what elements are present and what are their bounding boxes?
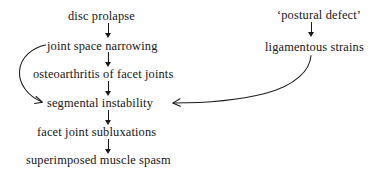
diagram-canvas: disc prolapse joint space narrowing oste… [0,0,387,181]
arrow-facet-joint-subluxations-to-muscle-spasm [104,139,113,154]
node-osteoarthritis-of-facet-joints: osteoarthritis of facet joints [33,68,173,80]
node-ligamentous-strains: ligamentous strains [265,41,364,53]
arrow-osteoarthritis-to-segmental-instability [104,81,113,96]
arrow-postural-defect-to-ligamentous-strains [307,22,316,37]
node-postural-defect: ‘postural defect’ [277,9,361,21]
node-segmental-instability: segmental instability [47,97,153,109]
arrow-segmental-instability-to-facet-joint-subluxations [104,110,113,125]
edge-ligamentous-strains-to-segmental-instability [174,56,312,104]
node-superimposed-muscle-spasm: superimposed muscle spasm [26,154,171,166]
node-disc-prolapse: disc prolapse [68,10,135,22]
arrow-disc-prolapse-to-joint-space-narrowing [104,23,113,38]
arrow-joint-space-narrowing-to-osteoarthritis [104,52,113,67]
node-joint-space-narrowing: joint space narrowing [47,40,158,52]
node-facet-joint-subluxations: facet joint subluxations [37,126,156,138]
